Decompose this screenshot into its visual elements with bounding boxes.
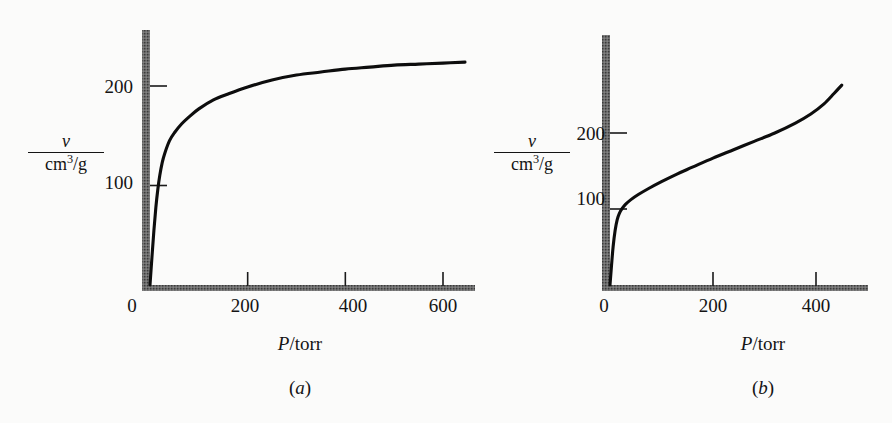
panel-caption-close-a: ) <box>305 377 311 398</box>
y-axis-title-b: v cm3/g <box>494 131 570 174</box>
x-axis-title-a: P/torr <box>240 334 360 353</box>
figure-page: 200 100 0 200 400 600 v cm3/g P/torr (a)… <box>0 0 892 423</box>
x-tick-label-b-400: 400 <box>793 296 839 315</box>
y-axis-bar-a <box>142 30 150 289</box>
panel-caption-close-b: ) <box>768 377 774 398</box>
x-axis-title-symbol-a: P <box>278 333 290 354</box>
y-axis-denominator-tail-b: /g <box>539 154 553 174</box>
y-axis-numerator-a: v <box>28 131 104 153</box>
x-axis-bar-a <box>142 285 475 291</box>
x-tick-label-b-0: 0 <box>590 296 618 315</box>
x-axis-title-b: P/torr <box>703 334 823 353</box>
x-axis-title-rest-b: /torr <box>752 333 785 354</box>
x-tick-label-a-0: 0 <box>118 296 146 315</box>
x-tick-label-a-200: 200 <box>222 296 268 315</box>
y-axis-denominator-tail-a: /g <box>73 154 87 174</box>
y-axis-denominator-b: cm3/g <box>494 153 570 174</box>
x-tick-label-b-200: 200 <box>690 296 736 315</box>
y-tick-label-b-100: 100 <box>550 189 605 208</box>
x-axis-title-rest-a: /torr <box>289 333 322 354</box>
panel-caption-letter-b: b <box>758 377 768 398</box>
panel-caption-a: (a) <box>250 378 350 397</box>
panel-caption-letter-a: a <box>295 377 305 398</box>
y-axis-denominator-base-a: cm <box>45 154 67 174</box>
y-axis-numerator-b: v <box>494 131 570 153</box>
x-axis-title-symbol-b: P <box>741 333 753 354</box>
plot-panel-a: 200 100 0 200 400 600 v cm3/g P/torr (a) <box>0 0 446 423</box>
panel-caption-b: (b) <box>713 378 813 397</box>
plot-a-canvas <box>0 0 446 423</box>
isotherm-curve-a <box>150 62 465 285</box>
y-axis-title-a: v cm3/g <box>28 131 104 174</box>
y-tick-label-a-200: 200 <box>78 77 133 96</box>
plot-b-canvas <box>446 0 892 423</box>
plot-panel-b: 200 100 0 200 400 v cm3/g P/torr (b) <box>446 0 892 423</box>
y-axis-denominator-base-b: cm <box>511 154 533 174</box>
y-axis-denominator-a: cm3/g <box>28 153 104 174</box>
x-axis-bar-b <box>602 285 868 291</box>
x-tick-label-a-400: 400 <box>330 296 376 315</box>
isotherm-curve-b <box>610 85 842 285</box>
y-axis-bar-b <box>602 35 610 289</box>
y-tick-label-a-100: 100 <box>78 173 133 192</box>
